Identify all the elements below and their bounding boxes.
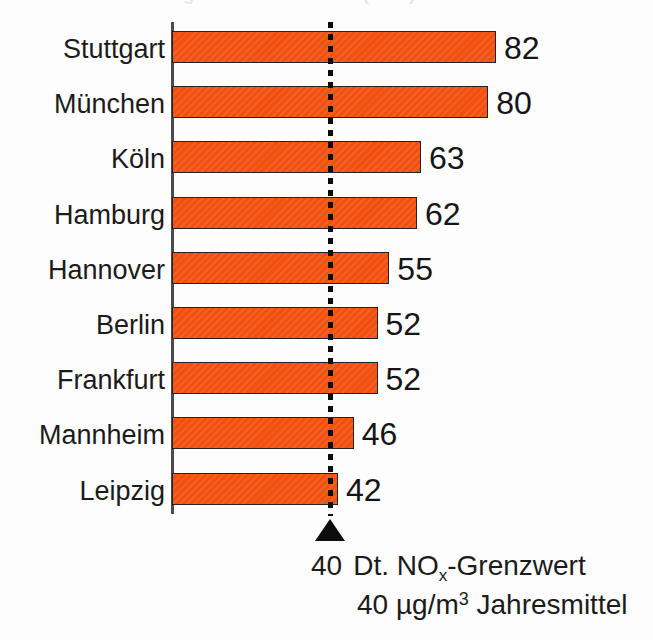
bar-value-label: 82 bbox=[504, 32, 540, 64]
threshold-caption-superscript: 3 bbox=[459, 589, 469, 609]
threshold-caption-tail: Jahresmittel bbox=[469, 589, 628, 620]
bar-value-label: 52 bbox=[386, 363, 422, 395]
category-label: Leipzig bbox=[0, 475, 165, 507]
bar-chart-plot: Stuttgart82München80Köln63Hamburg62Hanno… bbox=[0, 0, 653, 640]
bar-value-label: 63 bbox=[429, 142, 465, 174]
bar bbox=[172, 307, 378, 339]
category-label: Hamburg bbox=[0, 199, 165, 231]
threshold-caption-subscript: x bbox=[439, 566, 448, 585]
bar bbox=[172, 473, 338, 505]
threshold-caption-line-2: 40 µg/m3 Jahresmittel bbox=[357, 588, 627, 625]
bar-value-label: 80 bbox=[496, 87, 532, 119]
category-label: Mannheim bbox=[0, 419, 165, 451]
threshold-caption-suffix: -Grenzwert bbox=[447, 550, 585, 581]
threshold-dotted-line bbox=[328, 22, 333, 516]
bar bbox=[172, 141, 421, 173]
bar-value-label: 42 bbox=[346, 474, 382, 506]
threshold-caption-prefix: Dt. NO bbox=[353, 550, 439, 581]
bar-value-label: 62 bbox=[425, 198, 461, 230]
bar bbox=[172, 417, 354, 449]
threshold-caption-line-1: 40Dt. NOx-Grenzwert bbox=[311, 549, 586, 587]
bar-value-label: 52 bbox=[386, 308, 422, 340]
bar-value-label: 46 bbox=[362, 418, 398, 450]
chart-page: Stickoxid-Belastung deutscher Städte (NO… bbox=[0, 0, 653, 640]
bar bbox=[172, 362, 378, 394]
bar bbox=[172, 31, 496, 63]
category-label: Frankfurt bbox=[0, 364, 165, 396]
threshold-caption-value: 40 bbox=[311, 550, 342, 581]
bar-value-label: 55 bbox=[397, 253, 433, 285]
bar bbox=[172, 252, 389, 284]
category-label: Hannover bbox=[0, 254, 165, 286]
category-label: München bbox=[0, 88, 165, 120]
threshold-triangle-marker bbox=[315, 519, 345, 541]
category-label: Stuttgart bbox=[0, 33, 165, 65]
threshold-caption-unit: 40 µg/m bbox=[357, 589, 459, 620]
category-label: Berlin bbox=[0, 309, 165, 341]
bar bbox=[172, 197, 417, 229]
category-label: Köln bbox=[0, 143, 165, 175]
